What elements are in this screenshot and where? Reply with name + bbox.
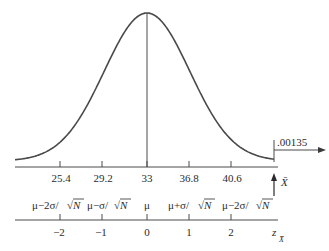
svg-text:μ−2σ/: μ−2σ/	[222, 199, 250, 211]
z-tick-label: −2	[53, 226, 65, 238]
svg-text:N: N	[203, 199, 212, 211]
x-tick-label: 33	[142, 172, 154, 184]
z-axis-label: z X̄	[271, 226, 285, 244]
x-tick-label: 25.4	[51, 172, 71, 184]
svg-text:X̄: X̄	[278, 235, 285, 244]
svg-text:μ: μ	[144, 199, 150, 211]
svg-text:N: N	[72, 199, 81, 211]
svg-text:N: N	[261, 199, 270, 211]
z-tick-label: 1	[186, 226, 192, 238]
symbolic-label-plus2: μ−2σ/ √ N	[222, 199, 273, 211]
x-tick-labels: 25.4 29.2 33 36.8 40.6	[51, 172, 242, 184]
symbolic-label-minus2: μ−2σ/ √ N	[32, 199, 84, 211]
tail-area-label: .00135	[277, 136, 308, 148]
svg-text:μ−2σ/: μ−2σ/	[32, 199, 60, 211]
z-tick-label: 0	[144, 226, 150, 238]
svg-text:μ+σ/: μ+σ/	[168, 199, 190, 211]
z-tick-label: −1	[95, 226, 107, 238]
z-tick-label: 2	[228, 226, 234, 238]
x-axis-ticks	[60, 161, 231, 167]
xbar-axis-label: X̄	[280, 176, 289, 188]
z-tick-labels: −2 −1 0 1 2	[53, 226, 234, 238]
x-tick-label: 29.2	[93, 172, 112, 184]
svg-text:z: z	[271, 226, 277, 238]
z-axis-ticks	[60, 214, 231, 220]
svg-text:X̄: X̄	[280, 176, 289, 188]
x-tick-label: 36.8	[179, 172, 199, 184]
normal-distribution-chart: .00135 25.4 29.2 33 36.8 40.6 X̄ μ−2σ/ √…	[0, 0, 329, 251]
svg-text:μ−σ/: μ−σ/	[87, 199, 109, 211]
symbolic-label-mean: μ	[144, 199, 150, 211]
arrowhead-up-icon	[271, 173, 277, 181]
symbolic-label-minus1: μ−σ/ √ N	[87, 199, 131, 211]
symbolic-label-plus1: μ+σ/ √ N	[168, 199, 215, 211]
arrowhead-right-icon	[318, 147, 326, 153]
svg-text:N: N	[119, 199, 128, 211]
x-tick-label: 40.6	[222, 172, 242, 184]
normal-curve	[15, 13, 274, 160]
symbolic-labels: μ−2σ/ √ N μ−σ/ √ N μ μ+σ/ √ N μ−2σ/ √ N	[32, 199, 273, 211]
